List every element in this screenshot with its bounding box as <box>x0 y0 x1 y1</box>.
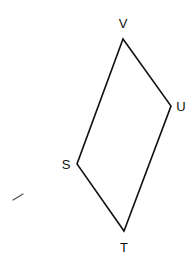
quadrilateral-diagram: V U T S <box>0 0 195 265</box>
vertex-label-v: V <box>119 16 128 31</box>
vertex-label-u: U <box>176 99 185 114</box>
vertex-label-s: S <box>62 157 71 172</box>
stray-pencil-mark <box>13 194 23 200</box>
quadrilateral-stuv <box>77 39 171 231</box>
vertex-label-t: T <box>120 240 128 255</box>
